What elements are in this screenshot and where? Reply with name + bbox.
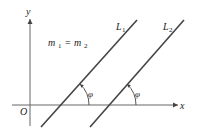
svg-text:2: 2 [169, 26, 173, 34]
angle-label-l1: φ [88, 89, 93, 99]
slope-equation: m 1 = m 2 [48, 37, 88, 50]
line-l1 [41, 20, 137, 127]
svg-text:L: L [115, 21, 122, 32]
diagram-canvas: y x O m 1 = m 2 L 1 L 2 φ φ [0, 0, 199, 137]
line-l1-label: L 1 [115, 21, 126, 34]
x-axis-label: x [179, 100, 185, 111]
y-axis-label: y [25, 6, 31, 17]
svg-text:m: m [74, 37, 81, 48]
svg-text:L: L [162, 21, 169, 32]
origin-label: O [20, 106, 27, 117]
svg-text:2: 2 [84, 42, 88, 50]
line-l2 [90, 20, 184, 127]
svg-text:m: m [48, 37, 55, 48]
svg-text:1: 1 [122, 26, 126, 34]
svg-text:1: 1 [58, 42, 62, 50]
svg-text:=: = [65, 37, 71, 48]
angle-label-l2: φ [135, 89, 140, 99]
line-l2-label: L 2 [162, 21, 173, 34]
